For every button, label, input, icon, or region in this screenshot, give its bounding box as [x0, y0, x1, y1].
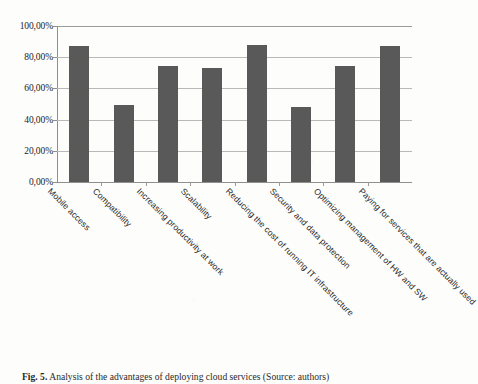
gridline-10000 — [57, 26, 412, 27]
y-tick-label: 60,00% — [3, 83, 53, 93]
gridline-6000 — [57, 88, 412, 89]
y-tick-label: 20,00% — [3, 146, 53, 156]
bar[interactable] — [335, 66, 355, 182]
x-axis-label: Increasing productivity at work — [135, 186, 226, 277]
bar[interactable] — [114, 105, 134, 182]
y-tick-label: 80,00% — [3, 52, 53, 62]
figure-number: Fig. 5. — [22, 371, 47, 382]
plot-area — [57, 26, 412, 182]
gridline-4000 — [57, 120, 412, 121]
bar[interactable] — [247, 45, 267, 182]
bar[interactable] — [158, 66, 178, 182]
x-axis-category-labels: Mobile accessCompatibilityIncreasing pro… — [57, 186, 432, 376]
bar[interactable] — [291, 107, 311, 182]
y-tick-label: 100,00% — [3, 21, 53, 31]
x-axis-label: Compatibility — [90, 186, 133, 229]
gridline-8000 — [57, 57, 412, 58]
x-axis-label: Security and data protection — [268, 186, 353, 271]
y-tick-label: 40,00% — [3, 115, 53, 125]
bar[interactable] — [380, 46, 400, 182]
y-tick-label: 0,00% — [3, 177, 53, 187]
figure-caption-text: Analysis of the advantages of deploying … — [49, 371, 329, 382]
bar[interactable] — [202, 68, 222, 182]
x-axis-label: Mobile access — [46, 186, 92, 232]
x-axis-label: Scalability — [179, 186, 214, 221]
gridline-2000 — [57, 151, 412, 152]
bar[interactable] — [69, 46, 89, 182]
figure-caption: Fig. 5. Analysis of the advantages of de… — [22, 371, 414, 382]
